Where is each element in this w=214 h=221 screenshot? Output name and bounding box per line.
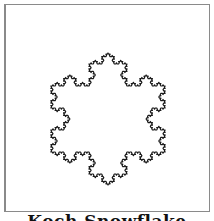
koch-snowflake-diagram <box>0 0 214 221</box>
figure-caption: Koch Snowflake <box>0 211 214 221</box>
koch-snowflake-outline <box>51 53 165 185</box>
